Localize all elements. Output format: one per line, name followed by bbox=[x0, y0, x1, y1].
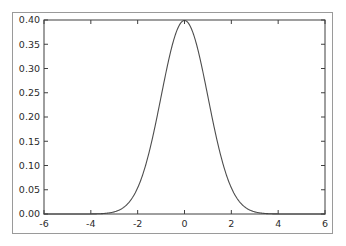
y-tick-label: 0.30 bbox=[19, 63, 40, 74]
y-tick-label: 0.20 bbox=[19, 111, 40, 122]
y-tick-label: 0.05 bbox=[19, 184, 40, 195]
matplotlib-figure: -6-4-20246 0.000.050.100.150.200.250.300… bbox=[12, 12, 333, 234]
x-tick-label: -2 bbox=[133, 218, 142, 229]
x-tick-label: 6 bbox=[322, 218, 328, 229]
x-tick-label: -4 bbox=[86, 218, 95, 229]
x-tick-label: 0 bbox=[181, 218, 187, 229]
y-tick-label: 0.35 bbox=[19, 39, 40, 50]
axes-background bbox=[44, 20, 325, 214]
x-tick-label: 4 bbox=[275, 218, 281, 229]
x-tick-label: 2 bbox=[228, 218, 234, 229]
screenshot-root: -6-4-20246 0.000.050.100.150.200.250.300… bbox=[0, 0, 346, 246]
y-axis-tick-labels: 0.000.050.100.150.200.250.300.350.40 bbox=[19, 14, 40, 219]
x-axis-tick-labels: -6-4-20246 bbox=[39, 218, 328, 229]
y-tick-label: 0.10 bbox=[19, 160, 40, 171]
y-tick-label: 0.15 bbox=[19, 136, 40, 147]
plot-canvas: -6-4-20246 0.000.050.100.150.200.250.300… bbox=[13, 13, 332, 233]
y-tick-label: 0.00 bbox=[19, 208, 40, 219]
x-tick-label: -6 bbox=[39, 218, 48, 229]
y-tick-label: 0.40 bbox=[19, 14, 40, 25]
y-tick-label: 0.25 bbox=[19, 87, 40, 98]
